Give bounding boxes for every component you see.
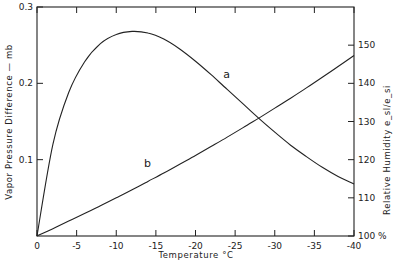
- x-tick-label: 0: [34, 241, 40, 251]
- plot-frame: [37, 7, 354, 236]
- curve-b-label: b: [144, 157, 151, 170]
- y2-axis-title: Relative Humidity e_sl/e_si: [382, 85, 392, 215]
- curve-a: [37, 31, 354, 236]
- y2-tick-label: 140: [358, 78, 375, 88]
- x-tick-label: -35: [307, 241, 322, 251]
- y-axis-ticks: 0.30.20.1: [19, 2, 43, 165]
- curve-b: [37, 56, 354, 237]
- x-axis-ticks: 0-5-10-15-20-25-30-35-40: [34, 230, 361, 251]
- x-tick-label: -30: [267, 241, 282, 251]
- curve-a-label: a: [223, 68, 230, 81]
- x-tick-label: -10: [109, 241, 124, 251]
- y2-tick-label: 110: [358, 193, 375, 203]
- y-axis-title: Vapor Pressure Difference — mb: [4, 44, 14, 200]
- top-axis-ticks: [37, 7, 354, 13]
- y2-tick-label: 130: [358, 117, 375, 127]
- y-tick-label: 0.3: [19, 2, 33, 12]
- y2-tick-label: 100 %: [358, 231, 387, 241]
- x-axis-title: Temperature °C: [157, 250, 233, 260]
- y2-tick-label: 150: [358, 40, 375, 50]
- y-tick-label: 0.2: [19, 78, 33, 88]
- y-tick-label: 0.1: [19, 155, 33, 165]
- chart: 0-5-10-15-20-25-30-35-40 0.30.20.1 15014…: [0, 0, 396, 265]
- y2-tick-label: 120: [358, 155, 375, 165]
- x-tick-label: -5: [72, 241, 81, 251]
- x-tick-label: -40: [347, 241, 362, 251]
